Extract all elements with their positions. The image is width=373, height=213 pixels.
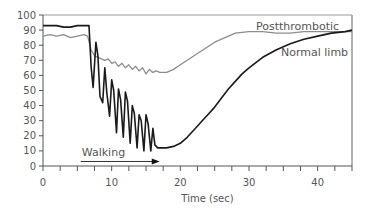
x-axis: 010203040 <box>40 166 352 188</box>
y-tick-label: 90 <box>23 25 36 36</box>
x-axis-title: Time (sec) <box>180 193 233 204</box>
x-tick-label: 0 <box>40 177 46 188</box>
y-tick-label: 100 <box>17 10 36 21</box>
y-tick-label: 50 <box>23 85 36 96</box>
y-tick-label: 70 <box>23 55 36 66</box>
walking-arrow-head <box>152 158 160 164</box>
y-tick-label: 10 <box>23 145 36 156</box>
x-tick-label: 40 <box>311 177 324 188</box>
chart: 0102030405060708090100 010203040 Walking… <box>0 0 373 213</box>
x-tick-label: 20 <box>174 177 187 188</box>
y-tick-label: 60 <box>23 70 36 81</box>
series-label-normal-limb: Normal limb <box>281 46 348 59</box>
annotation-layer: Walking <box>81 146 160 164</box>
y-tick-label: 80 <box>23 40 36 51</box>
series-line-normal-limb <box>43 26 352 151</box>
y-tick-label: 40 <box>23 100 36 111</box>
x-tick-label: 30 <box>243 177 256 188</box>
y-axis: 0102030405060708090100 <box>17 10 43 172</box>
series-layer <box>43 26 352 151</box>
walking-label: Walking <box>82 146 125 159</box>
y-tick-label: 30 <box>23 115 36 126</box>
series-label-postthrombotic: Postthrombotic <box>256 20 339 33</box>
y-tick-label: 0 <box>30 161 36 172</box>
y-tick-label: 20 <box>23 130 36 141</box>
x-tick-label: 10 <box>105 177 118 188</box>
